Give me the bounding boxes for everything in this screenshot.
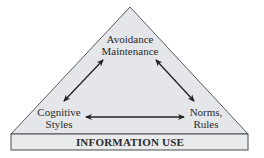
base-label: INFORMATION USE (11, 134, 249, 150)
node-left-line2: Styles (34, 118, 84, 130)
node-top-line2: Maintenance (100, 45, 160, 57)
node-right: Norms, Rules (186, 106, 226, 130)
node-left-line1: Cognitive (34, 106, 84, 118)
triangle-diagram: Avoidance Maintenance Cognitive Styles N… (0, 0, 264, 158)
node-right-line1: Norms, (186, 106, 226, 118)
node-right-line2: Rules (186, 118, 226, 130)
node-top-line1: Avoidance (100, 33, 160, 45)
node-left: Cognitive Styles (34, 106, 84, 130)
node-top: Avoidance Maintenance (100, 33, 160, 57)
